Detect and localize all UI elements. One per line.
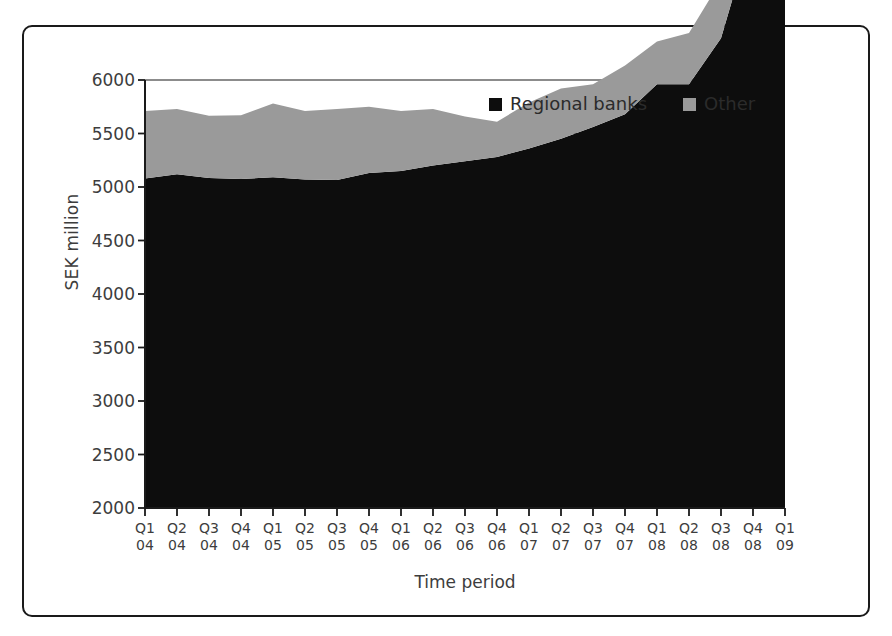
legend-swatch (683, 98, 696, 111)
legend-label: Regional banks (510, 93, 647, 114)
stacked-area-chart: SEK million Time period 2000250030003500… (0, 0, 892, 636)
area-series-group (145, 0, 785, 508)
plot-canvas: Regional banksOther (0, 0, 892, 636)
chart-legend: Regional banksOther (489, 93, 756, 114)
legend-swatch (489, 98, 502, 111)
legend-label: Other (704, 93, 756, 114)
